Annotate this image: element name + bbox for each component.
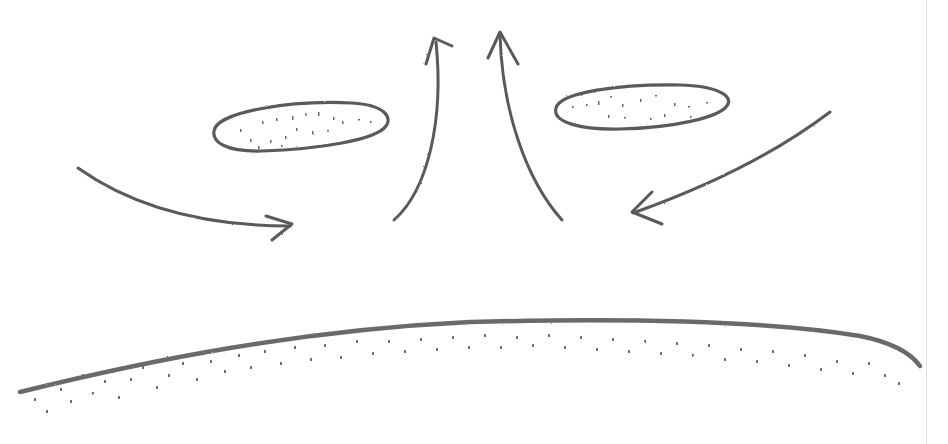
updraft-right-arrow-icon xyxy=(488,32,562,220)
convection-sketch xyxy=(0,0,948,444)
updraft-left-arrow-icon xyxy=(394,38,452,220)
cloud-right xyxy=(556,85,729,129)
cloud-left xyxy=(214,103,388,152)
inflow-right-arrow-icon xyxy=(632,112,830,224)
inflow-left-arrow-icon xyxy=(78,168,292,240)
ground-surface xyxy=(20,320,920,413)
